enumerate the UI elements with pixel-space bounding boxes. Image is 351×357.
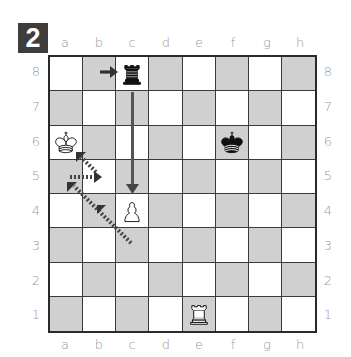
square-g4	[249, 194, 282, 228]
file-label-c: c	[122, 337, 142, 353]
square-c5	[116, 160, 149, 194]
rank-label-5: 5	[26, 168, 46, 184]
file-label-b: b	[89, 337, 109, 353]
square-e8	[183, 57, 216, 91]
square-h2	[282, 263, 315, 297]
square-a7	[50, 91, 83, 125]
white-rook-icon	[185, 300, 213, 328]
rank-label-3: 3	[26, 238, 46, 254]
square-d6	[149, 126, 182, 160]
square-c8	[116, 57, 149, 91]
square-g8	[249, 57, 282, 91]
file-label-a: a	[55, 337, 75, 353]
square-c6	[116, 126, 149, 160]
file-label-f: f	[223, 337, 243, 353]
square-d8	[149, 57, 182, 91]
file-label-d: d	[156, 337, 176, 353]
square-f5	[216, 160, 249, 194]
rank-label-6: 6	[318, 134, 338, 150]
square-b5	[83, 160, 116, 194]
square-a5	[50, 160, 83, 194]
square-b4	[83, 194, 116, 228]
file-label-a: a	[55, 35, 75, 51]
square-a8	[50, 57, 83, 91]
square-a4	[50, 194, 83, 228]
square-h3	[282, 228, 315, 262]
square-g5	[249, 160, 282, 194]
rank-label-1: 1	[318, 307, 338, 323]
rank-label-7: 7	[318, 99, 338, 115]
square-d1	[149, 297, 182, 331]
square-g7	[249, 91, 282, 125]
square-c1	[116, 297, 149, 331]
rank-label-4: 4	[26, 203, 46, 219]
square-g2	[249, 263, 282, 297]
square-c2	[116, 263, 149, 297]
square-e7	[183, 91, 216, 125]
square-d4	[149, 194, 182, 228]
square-h6	[282, 126, 315, 160]
white-king-icon	[52, 128, 80, 156]
square-e5	[183, 160, 216, 194]
file-label-g: g	[257, 337, 277, 353]
square-f6	[216, 126, 249, 160]
square-d7	[149, 91, 182, 125]
diagram-number-badge: 2	[18, 23, 48, 53]
file-label-f: f	[223, 35, 243, 51]
square-b3	[83, 228, 116, 262]
rank-label-8: 8	[318, 64, 338, 80]
square-e6	[183, 126, 216, 160]
square-b7	[83, 91, 116, 125]
file-label-h: h	[290, 337, 310, 353]
square-e2	[183, 263, 216, 297]
square-a1	[50, 297, 83, 331]
square-b2	[83, 263, 116, 297]
square-g3	[249, 228, 282, 262]
square-f1	[216, 297, 249, 331]
black-king-icon	[218, 128, 246, 156]
square-g1	[249, 297, 282, 331]
rank-label-6: 6	[26, 134, 46, 150]
chess-board	[48, 55, 317, 333]
rank-label-1: 1	[26, 307, 46, 323]
rank-label-7: 7	[26, 99, 46, 115]
square-d5	[149, 160, 182, 194]
square-h8	[282, 57, 315, 91]
file-label-b: b	[89, 35, 109, 51]
square-h4	[282, 194, 315, 228]
square-a2	[50, 263, 83, 297]
square-a3	[50, 228, 83, 262]
square-f3	[216, 228, 249, 262]
square-g6	[249, 126, 282, 160]
rank-label-2: 2	[26, 273, 46, 289]
square-e4	[183, 194, 216, 228]
file-label-g: g	[257, 35, 277, 51]
file-label-d: d	[156, 35, 176, 51]
square-b6	[83, 126, 116, 160]
file-label-h: h	[290, 35, 310, 51]
square-e3	[183, 228, 216, 262]
rank-label-3: 3	[318, 238, 338, 254]
square-d3	[149, 228, 182, 262]
square-b8	[83, 57, 116, 91]
square-f7	[216, 91, 249, 125]
rank-label-5: 5	[318, 168, 338, 184]
file-label-c: c	[122, 35, 142, 51]
square-b1	[83, 297, 116, 331]
square-f8	[216, 57, 249, 91]
square-h7	[282, 91, 315, 125]
rank-label-2: 2	[318, 273, 338, 289]
white-pawn-icon	[118, 197, 146, 225]
black-rook-icon	[118, 60, 146, 88]
square-c7	[116, 91, 149, 125]
square-e1	[183, 297, 216, 331]
file-label-e: e	[189, 35, 209, 51]
rank-label-8: 8	[26, 64, 46, 80]
square-c3	[116, 228, 149, 262]
square-d2	[149, 263, 182, 297]
square-f4	[216, 194, 249, 228]
square-h5	[282, 160, 315, 194]
file-label-e: e	[189, 337, 209, 353]
square-f2	[216, 263, 249, 297]
square-c4	[116, 194, 149, 228]
